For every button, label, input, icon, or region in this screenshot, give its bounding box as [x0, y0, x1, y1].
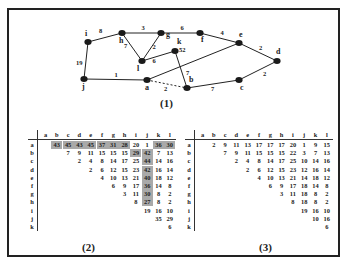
weighted-graph: 83642277211972652ihgfedkljabc — [0, 0, 350, 125]
node-l — [138, 58, 145, 64]
table-cell: 16 — [310, 207, 321, 215]
row-label: b — [28, 149, 36, 157]
table-cell: 14 — [153, 157, 164, 165]
table-cell: 7 — [153, 149, 164, 157]
row-label: g — [28, 190, 36, 198]
table-cell: 45 — [63, 141, 74, 149]
node-label: i — [85, 29, 88, 38]
edge-weight-label: 4 — [221, 29, 225, 36]
table-cell: 17 — [130, 182, 141, 190]
table-cell: 4 — [254, 174, 265, 182]
table-cell: 15 — [97, 149, 108, 157]
table-cell: 14 — [153, 182, 164, 190]
table-cell: 6 — [108, 182, 119, 190]
node-label: h — [119, 36, 124, 45]
table-cell: 20 — [130, 141, 141, 149]
table-cell: 2 — [231, 157, 242, 165]
table-cell: 31 — [108, 141, 119, 149]
table-cell: 42 — [142, 149, 153, 157]
table-cell: 14 — [299, 174, 310, 182]
table-cell: 10 — [321, 207, 332, 215]
table-cell: 12 — [164, 174, 175, 182]
row-label: f — [185, 182, 193, 190]
table-cell: 43 — [51, 141, 62, 149]
edge-weight-label: 7 — [211, 85, 215, 92]
table-cell: 19 — [142, 207, 153, 215]
row-label-rule — [194, 130, 195, 231]
table-cell: 13 — [119, 174, 130, 182]
table-cell: 9 — [276, 182, 287, 190]
table-cell: 17 — [276, 157, 287, 165]
table-cell: 10 — [299, 157, 310, 165]
column-header: b — [51, 131, 62, 139]
table-cell: 14 — [108, 157, 119, 165]
row-label: h — [185, 198, 193, 206]
table-cell: 6 — [254, 166, 265, 174]
table-cell: 2 — [164, 190, 175, 198]
table-cell: 15 — [108, 149, 119, 157]
table-cell: 13 — [164, 149, 175, 157]
table-cell: 16 — [164, 157, 175, 165]
row-label: a — [185, 141, 193, 149]
column-header: j — [142, 131, 153, 139]
header-rule — [28, 139, 176, 140]
node-label: a — [145, 83, 149, 92]
row-label: k — [28, 223, 36, 231]
edge-l-k — [142, 51, 175, 61]
table-cell: 45 — [85, 141, 96, 149]
table-cell: 13 — [321, 149, 332, 157]
column-header: e — [85, 131, 96, 139]
table-cell: 25 — [287, 157, 298, 165]
node-b — [183, 85, 190, 91]
table-cell: 16 — [153, 166, 164, 174]
column-header: b — [208, 131, 219, 139]
table-cell: 3 — [299, 149, 310, 157]
table-cell: 21 — [287, 174, 298, 182]
edge-i-h — [88, 33, 122, 42]
table-cell: 15 — [119, 149, 130, 157]
table-cell: 18 — [299, 190, 310, 198]
table-cell: 23 — [287, 166, 298, 174]
table-cell: 2 — [321, 190, 332, 198]
table-cell: 8 — [130, 198, 141, 206]
table-cell: 16 — [321, 157, 332, 165]
table-cell: 11 — [242, 149, 253, 157]
edge-weight-label: 6 — [153, 57, 157, 64]
table-cell: 15 — [276, 166, 287, 174]
node-label: d — [276, 47, 281, 56]
edge-weight-label: 8 — [99, 27, 103, 34]
node-label: g — [166, 30, 170, 39]
row-label: i — [28, 207, 36, 215]
table-cell: 17 — [265, 141, 276, 149]
table-cell: 15 — [254, 149, 265, 157]
table-cell: 42 — [142, 166, 153, 174]
table-cell: 12 — [321, 174, 332, 182]
distance-table-3: abcdefghijkla291113171717201915b79111515… — [185, 130, 335, 230]
header-rule — [185, 139, 333, 140]
table-cell: 2 — [164, 198, 175, 206]
table-cell: 11 — [85, 149, 96, 157]
table-cell: 12 — [265, 166, 276, 174]
table-cell: 30 — [164, 141, 175, 149]
table-cell: 20 — [287, 141, 298, 149]
row-label: a — [28, 141, 36, 149]
table-cell: 10 — [164, 207, 175, 215]
edge-weight-label: 1 — [115, 71, 118, 78]
table-cell: 4 — [85, 157, 96, 165]
column-header: e — [242, 131, 253, 139]
column-header: c — [63, 131, 74, 139]
table-cell: 2 — [85, 166, 96, 174]
table-cell: 7 — [310, 149, 321, 157]
edge-weight-label: 2 — [164, 85, 167, 92]
table-2-caption: (2) — [82, 241, 95, 253]
table-cell: 16 — [321, 215, 332, 223]
table-cell: 15 — [276, 149, 287, 157]
row-label: c — [28, 157, 36, 165]
table-cell: 10 — [108, 174, 119, 182]
table-cell: 2 — [321, 198, 332, 206]
node-label: k — [177, 37, 182, 46]
row-label: g — [185, 190, 193, 198]
table-cell: 6 — [265, 182, 276, 190]
edge-weight-label: 7 — [124, 42, 128, 49]
distance-table-2: abcdefghijkla434543453731282013630b79111… — [28, 130, 178, 230]
